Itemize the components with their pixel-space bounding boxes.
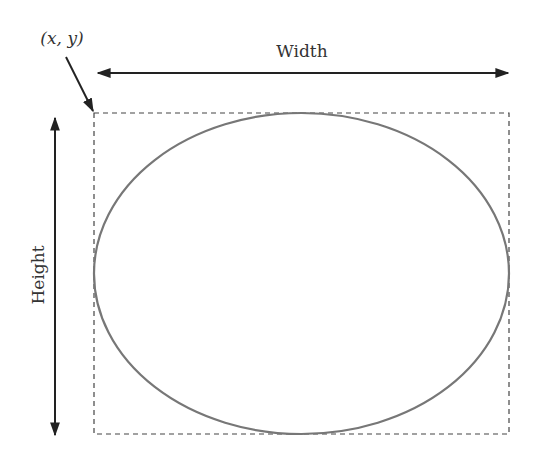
width-label: Width <box>276 41 327 61</box>
origin-label: (x, y) <box>40 28 83 48</box>
height-label: Height <box>28 245 48 304</box>
bounding-box <box>94 113 509 434</box>
origin-pointer-arrow <box>66 57 93 111</box>
ellipse <box>94 113 509 434</box>
ellipse-bounding-box-diagram: (x, y) Width Height <box>0 0 540 459</box>
